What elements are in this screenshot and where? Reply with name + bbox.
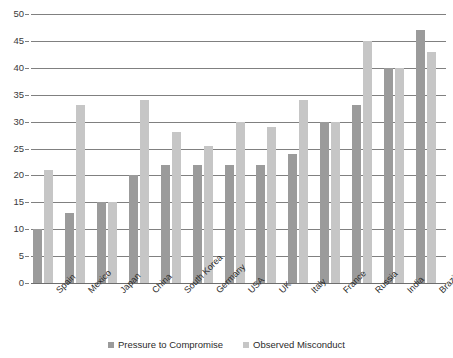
y-tick-mark-5	[25, 256, 29, 257]
legend-swatch-icon	[243, 342, 249, 348]
bar-group	[63, 14, 95, 283]
x-tick-label-south-korea: South Korea	[182, 288, 189, 295]
y-tick-label-0: 0	[2, 278, 24, 288]
bar-group	[350, 14, 382, 283]
bar	[384, 68, 393, 283]
y-tick-label-40: 40	[2, 63, 24, 73]
bar	[33, 229, 42, 283]
x-tick-label-usa: USA	[246, 288, 253, 295]
bar	[129, 175, 138, 283]
bar	[236, 122, 245, 283]
bar	[363, 41, 372, 283]
bar	[395, 68, 404, 283]
bar	[267, 127, 276, 283]
x-tick-label-uk: UK	[277, 288, 284, 295]
chart-legend: Pressure to CompromiseObserved Misconduc…	[0, 340, 453, 350]
bar	[161, 165, 170, 283]
bar-group	[414, 14, 446, 283]
bar	[320, 122, 329, 283]
plot-area	[31, 14, 446, 283]
y-tick-mark-45	[25, 41, 29, 42]
bar-group	[127, 14, 159, 283]
legend-swatch-icon	[108, 342, 114, 348]
bar-group	[95, 14, 127, 283]
bar-group	[286, 14, 318, 283]
y-tick-label-25: 25	[2, 144, 24, 154]
bar-chart: 50454035302520151050 SpainMexicoJapanChi…	[0, 0, 453, 358]
bar	[299, 100, 308, 283]
bar	[193, 165, 202, 283]
x-tick-label-france: France	[341, 288, 348, 295]
y-tick-mark-35	[25, 95, 29, 96]
y-tick-mark-50	[25, 14, 29, 15]
bar-group	[159, 14, 191, 283]
y-tick-label-45: 45	[2, 36, 24, 46]
x-axis-tick-labels: SpainMexicoJapanChinaSouth KoreaGermanyU…	[31, 285, 446, 333]
y-tick-label-30: 30	[2, 117, 24, 127]
bar	[288, 154, 297, 283]
bar-group	[318, 14, 350, 283]
bar	[44, 170, 53, 283]
bar-group	[31, 14, 63, 283]
legend-item[interactable]: Pressure to Compromise	[108, 340, 223, 350]
y-tick-mark-10	[25, 229, 29, 230]
bar-group	[382, 14, 414, 283]
legend-item[interactable]: Observed Misconduct	[243, 340, 345, 350]
x-tick-label-italy: Italy	[309, 288, 316, 295]
bar-group	[191, 14, 223, 283]
bar	[140, 100, 149, 283]
y-tick-label-15: 15	[2, 197, 24, 207]
legend-label: Pressure to Compromise	[118, 340, 223, 350]
x-tick-label-russia: Russia	[373, 288, 380, 295]
y-tick-mark-25	[25, 149, 29, 150]
bar-group	[254, 14, 286, 283]
x-tick-label-brazil: Brazil	[437, 288, 444, 295]
bar	[352, 105, 361, 283]
y-tick-label-5: 5	[2, 251, 24, 261]
y-tick-label-35: 35	[2, 90, 24, 100]
x-tick-label-india: India	[405, 288, 412, 295]
bar	[172, 132, 181, 283]
y-tick-mark-0	[25, 283, 29, 284]
y-tick-mark-40	[25, 68, 29, 69]
x-tick-label-mexico: Mexico	[86, 288, 93, 295]
bar	[416, 30, 425, 283]
y-tick-label-10: 10	[2, 224, 24, 234]
bar	[225, 165, 234, 283]
y-tick-label-50: 50	[2, 9, 24, 19]
legend-label: Observed Misconduct	[253, 340, 345, 350]
bar-group	[223, 14, 255, 283]
x-tick-label-china: China	[150, 288, 157, 295]
x-tick-label-spain: Spain	[54, 288, 61, 295]
x-tick-label-germany: Germany	[214, 288, 221, 295]
y-tick-mark-15	[25, 202, 29, 203]
y-tick-mark-20	[25, 175, 29, 176]
bar	[427, 52, 436, 283]
bars-layer	[31, 14, 446, 283]
y-tick-mark-30	[25, 122, 29, 123]
bar	[256, 165, 265, 283]
bar	[76, 105, 85, 283]
y-tick-label-20: 20	[2, 170, 24, 180]
x-tick-label-japan: Japan	[118, 288, 125, 295]
bar	[331, 122, 340, 283]
